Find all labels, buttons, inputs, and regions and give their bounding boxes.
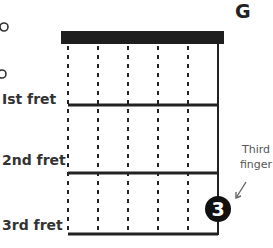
finger-marker: 3 [205,196,231,222]
fret-label-3: 3rd fret [2,217,63,233]
annotation-line-2: finger [238,157,273,172]
strings [68,46,188,234]
annotation-line-1: Third [238,142,273,157]
open-string-marker [0,23,8,31]
open-string-marker [0,70,6,78]
fret-label-2: 2nd fret [2,152,66,168]
finger-annotation: Third finger [238,142,273,172]
fret-label-1: Ist fret [2,91,56,107]
arrow-icon [236,182,246,198]
fretboard: 3 [0,0,273,248]
nut [61,31,224,44]
guitar-chord-diagram: G 3 Ist fret 2nd fret [0,0,273,248]
finger-number: 3 [211,198,224,220]
